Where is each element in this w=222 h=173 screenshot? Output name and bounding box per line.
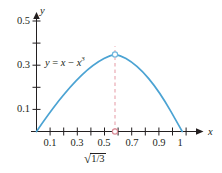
x-tick-label-0.7: 0.7 [120, 138, 144, 149]
curve-equation-label: y = x − x3 [45, 56, 85, 68]
y-tick-label-0.5: 0.5 [8, 16, 30, 27]
x-tick-label-0.5: 0.5 [92, 138, 116, 149]
x-tick-label-0.3: 0.3 [65, 138, 89, 149]
figure-container: 0.5 0.3 0.1 0.1 0.3 0.5 0.7 0.9 1 y x y … [0, 0, 222, 173]
y-tick-label-0.3: 0.3 [8, 60, 30, 71]
critical-x-annotation: √1/3 [84, 152, 106, 165]
maximum-point-marker [112, 52, 117, 57]
x-tick-label-1: 1 [168, 138, 192, 149]
radicand-value: 1/3 [90, 153, 105, 165]
critical-x-axis-marker [112, 129, 117, 134]
y-axis [33, 12, 40, 132]
y-axis-label: y [40, 6, 45, 17]
equation-equals: = [50, 57, 61, 68]
x-tick-label-0.1: 0.1 [38, 138, 62, 149]
x-axis-label: x [208, 127, 213, 138]
equation-exponent: 3 [81, 55, 85, 63]
radical-group: √1/3 [84, 152, 106, 165]
equation-minus: − [66, 57, 77, 68]
y-tick-label-0.1: 0.1 [8, 104, 30, 115]
